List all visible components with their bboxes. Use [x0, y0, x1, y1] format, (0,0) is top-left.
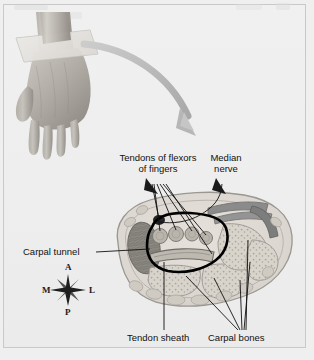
curved-pointer-arrow [84, 44, 196, 136]
compass-posterior: P [65, 307, 71, 317]
compass-medial: M [42, 285, 51, 295]
illustration-layer [0, 0, 314, 360]
hand-photograph [16, 12, 98, 160]
label-line-1: Median [200, 152, 252, 163]
label-line-2: nerve [200, 163, 252, 174]
label-carpal-bones: Carpal bones [208, 332, 265, 343]
label-tendons-of-flexors: Tendons of flexors of fingers [104, 152, 212, 174]
compass-anterior: A [65, 262, 72, 272]
compass-lateral: L [89, 285, 95, 295]
label-median-nerve: Median nerve [200, 152, 252, 174]
label-tendon-sheath: Tendon sheath [127, 332, 189, 343]
label-carpal-tunnel: Carpal tunnel [23, 246, 80, 257]
label-line-2: of fingers [104, 163, 212, 174]
orientation-compass [50, 274, 86, 306]
label-arrowheads [144, 178, 226, 194]
label-line-1: Tendons of flexors [104, 152, 212, 163]
anatomy-figure: Tendons of flexors of fingers Median ner… [0, 0, 314, 360]
